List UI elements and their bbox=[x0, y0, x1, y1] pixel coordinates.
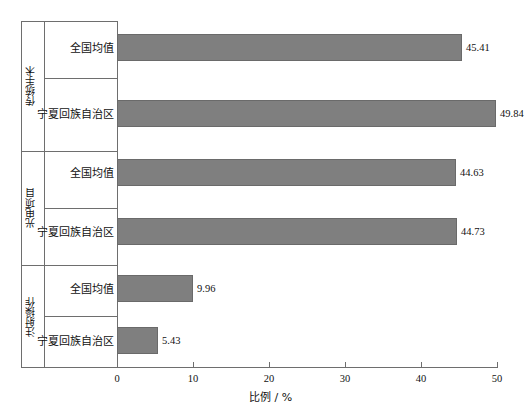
frame-top-line bbox=[21, 21, 118, 22]
x-tick-label-10: 10 bbox=[179, 374, 207, 385]
x-tick-30 bbox=[345, 362, 346, 367]
bar-g1-ningxia bbox=[117, 100, 496, 127]
value-axis-line bbox=[117, 21, 118, 368]
group-axis-line bbox=[21, 21, 22, 368]
x-tick-label-0: 0 bbox=[103, 374, 131, 385]
x-axis-line bbox=[21, 367, 498, 368]
x-tick-label-40: 40 bbox=[407, 374, 435, 385]
group-divider-1 bbox=[21, 151, 118, 152]
bar-value-g2-national: 44.63 bbox=[460, 168, 484, 179]
x-tick-0 bbox=[117, 362, 118, 367]
bar-g2-national bbox=[117, 159, 456, 186]
cat-divider-2 bbox=[44, 208, 118, 209]
x-tick-label-50: 50 bbox=[483, 374, 511, 385]
category-label-g3-national: 全国均值 bbox=[46, 284, 114, 295]
category-axis-line bbox=[44, 21, 45, 368]
cat-divider-3 bbox=[44, 316, 118, 317]
group-divider-2 bbox=[21, 265, 118, 266]
x-tick-10 bbox=[193, 362, 194, 367]
bar-g2-ningxia bbox=[117, 218, 457, 245]
bar-g3-ningxia bbox=[117, 327, 158, 354]
bar-value-g1-national: 45.41 bbox=[466, 43, 490, 54]
bar-value-g1-ningxia: 49.84 bbox=[500, 109, 524, 120]
category-label-g1-ningxia: 宁夏回族自治区 bbox=[32, 109, 114, 120]
x-tick-40 bbox=[421, 362, 422, 367]
bar-g3-national bbox=[117, 275, 193, 302]
category-label-g3-ningxia: 宁夏回族自治区 bbox=[32, 336, 114, 347]
x-tick-20 bbox=[269, 362, 270, 367]
category-label-g2-ningxia: 宁夏回族自治区 bbox=[32, 227, 114, 238]
bar-value-g3-national: 9.96 bbox=[197, 284, 215, 295]
x-tick-50 bbox=[497, 362, 498, 367]
bar-chart: 0 10 20 30 40 50 比例 / % 传统手术 光电项目 注射操作 全… bbox=[0, 0, 528, 417]
x-tick-label-20: 20 bbox=[255, 374, 283, 385]
category-label-g2-national: 全国均值 bbox=[46, 168, 114, 179]
x-tick-label-30: 30 bbox=[331, 374, 359, 385]
bar-g1-national bbox=[117, 34, 462, 61]
x-axis-title: 比例 / % bbox=[249, 392, 292, 403]
bar-value-g2-ningxia: 44.73 bbox=[461, 227, 485, 238]
bar-value-g3-ningxia: 5.43 bbox=[162, 336, 180, 347]
category-label-g1-national: 全国均值 bbox=[46, 43, 114, 54]
cat-divider-1 bbox=[44, 78, 118, 79]
